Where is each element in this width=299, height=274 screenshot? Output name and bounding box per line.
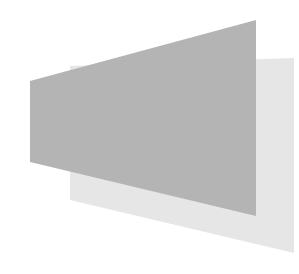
- front-panel-shape: [30, 20, 256, 216]
- perspective-panels-graphic: [0, 0, 299, 274]
- graphic-canvas: [0, 0, 299, 274]
